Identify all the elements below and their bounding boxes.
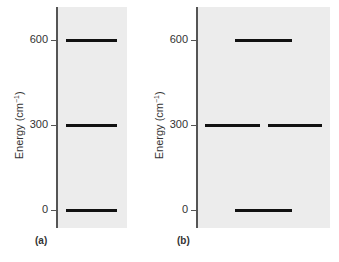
panel-a-tick-0 [51,210,56,211]
panel-b-level-600 [235,39,292,42]
panel-b-level-300-left [205,124,260,127]
panel-a-y-axis-label: Energy (cm−1) [13,89,26,161]
panel-b-tick-600 [191,40,196,41]
panel-a-tick-300 [51,125,56,126]
panel-b-tick-label-600: 600 [158,33,188,45]
panel-a-level-0 [66,209,117,212]
panel-b-level-0 [235,209,292,212]
panel-a-level-300 [66,124,117,127]
panel-b-tick-300 [191,125,196,126]
panel-a-y-axis [56,7,58,228]
panel-b-tick-label-0: 0 [158,203,188,215]
panel-a-tick-600 [51,40,56,41]
panel-a-tag: (a) [35,235,47,246]
panel-a-level-600 [66,39,117,42]
panel-a-tick-label-600: 600 [18,33,48,45]
panel-b-tick-0 [191,210,196,211]
panel-b-tag: (b) [177,235,190,246]
panel-b-y-axis-label: Energy (cm−1) [153,89,166,161]
panel-b-level-300-right [268,124,322,127]
panel-b-y-axis [196,7,198,228]
panel-a-tick-label-0: 0 [18,203,48,215]
